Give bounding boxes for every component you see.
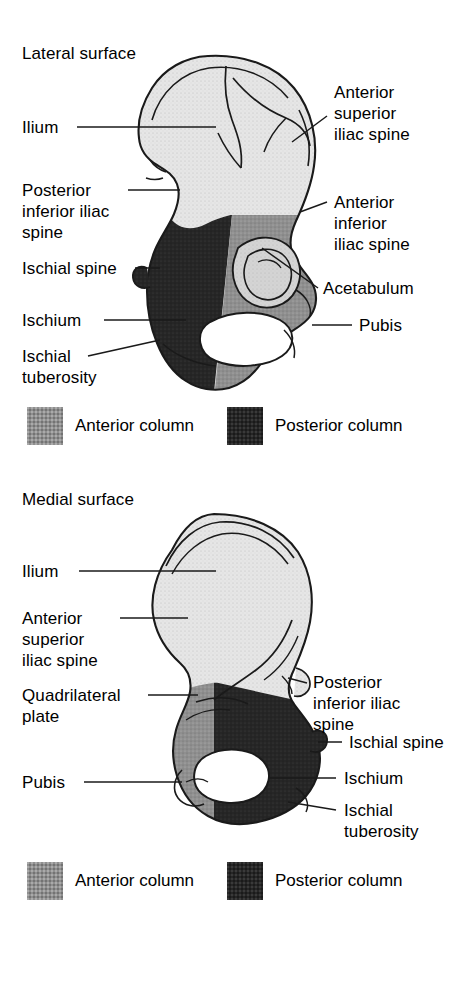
label-ischial-spine: Ischial spine xyxy=(349,732,444,753)
legend-entry-posterior-column: Posterior column xyxy=(227,407,403,445)
label-ischial-spine: Ischial spine xyxy=(22,258,117,279)
label-ischium: Ischium xyxy=(22,310,81,331)
label-acetabulum: Acetabulum xyxy=(323,278,414,299)
posterior-column-swatch-icon xyxy=(227,407,263,445)
label-posterior-inferior-iliac-spine: Posterior inferior iliac spine xyxy=(313,672,400,735)
posterior-column-swatch-icon xyxy=(227,862,263,900)
legend-entry-posterior-column: Posterior column xyxy=(227,862,403,900)
legend-medial: Anterior column Posterior column xyxy=(0,862,449,904)
label-ischium: Ischium xyxy=(344,768,403,789)
figure-lateral-surface: Lateral surface xyxy=(0,0,449,460)
label-ilium: Ilium xyxy=(22,117,58,138)
legend-label-posterior-column: Posterior column xyxy=(275,416,403,436)
label-anterior-superior-iliac-spine: Anterior superior iliac spine xyxy=(334,82,410,145)
label-anterior-inferior-iliac-spine: Anterior inferior iliac spine xyxy=(334,192,410,255)
legend-label-anterior-column: Anterior column xyxy=(75,871,194,891)
label-anterior-superior-iliac-spine: Anterior superior iliac spine xyxy=(22,608,98,671)
legend-label-posterior-column: Posterior column xyxy=(275,871,403,891)
legend-lateral: Anterior column Posterior column xyxy=(0,407,449,449)
label-ischial-tuberosity: Ischial tuberosity xyxy=(22,346,97,388)
label-quadrilateral-plate: Quadrilateral plate xyxy=(22,685,121,727)
label-pubis: Pubis xyxy=(359,315,402,336)
label-ilium: Ilium xyxy=(22,561,58,582)
legend-entry-anterior-column: Anterior column xyxy=(27,862,194,900)
anterior-column-swatch-icon xyxy=(27,862,63,900)
label-posterior-inferior-iliac-spine: Posterior inferior iliac spine xyxy=(22,180,109,243)
label-pubis: Pubis xyxy=(22,772,65,793)
figure-medial-surface: Medial surface xyxy=(0,470,449,930)
anterior-column-swatch-icon xyxy=(27,407,63,445)
label-ischial-tuberosity: Ischial tuberosity xyxy=(344,800,419,842)
legend-label-anterior-column: Anterior column xyxy=(75,416,194,436)
legend-entry-anterior-column: Anterior column xyxy=(27,407,194,445)
